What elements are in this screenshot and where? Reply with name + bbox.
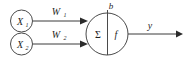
weight-subscript-1: 1 xyxy=(64,12,67,18)
input-label-2: X xyxy=(16,39,24,50)
neuron-diagram: X 1 X 2 W 1 W 2 b Σ f y xyxy=(0,0,186,62)
bias-label: b xyxy=(109,1,114,11)
weight-label-1: W xyxy=(52,6,62,17)
arrow-head-input-2 xyxy=(80,41,88,48)
input-label-1: X xyxy=(16,16,24,27)
weight-subscript-2: 2 xyxy=(64,35,67,41)
summation-symbol: Σ xyxy=(95,29,101,40)
output-label: y xyxy=(147,20,153,31)
weight-label-2: W xyxy=(52,29,62,40)
input-subscript-2: 2 xyxy=(26,45,29,51)
input-subscript-1: 1 xyxy=(26,22,29,28)
arrow-head-output xyxy=(176,31,183,38)
arrow-head-input-1 xyxy=(80,18,88,25)
neuron-diagram-canvas: X 1 X 2 W 1 W 2 b Σ f y xyxy=(0,0,186,62)
